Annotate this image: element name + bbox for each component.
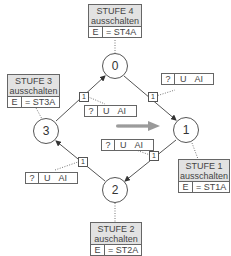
action-value: = ST3A bbox=[22, 97, 59, 107]
cond-a: AI bbox=[191, 74, 214, 84]
action-subtitle: ausschalten bbox=[8, 86, 59, 96]
condition-3-0: ?UAI bbox=[84, 105, 137, 117]
state-1: 1 bbox=[173, 117, 199, 143]
priority-3-0: 1 bbox=[79, 92, 89, 102]
action-value: = ST2A bbox=[105, 245, 141, 255]
cond-u: U bbox=[98, 106, 114, 116]
cond-a: AI bbox=[55, 173, 78, 183]
cond-a: AI bbox=[131, 140, 154, 150]
action-title: STUFE 2 bbox=[91, 224, 141, 234]
action-subtitle: ausschalten bbox=[89, 16, 141, 26]
cond-u: U bbox=[39, 173, 55, 183]
state-3: 3 bbox=[33, 118, 59, 144]
action-stufe-1: STUFE 1ausschalten E= ST1A bbox=[178, 159, 230, 193]
condition-2-3: ?UAI bbox=[25, 172, 78, 184]
action-stufe-2: STUFE 2auschalten E= ST2A bbox=[90, 222, 142, 256]
state-2: 2 bbox=[102, 177, 128, 203]
priority-0-1: 1 bbox=[148, 92, 158, 102]
action-e: E bbox=[91, 245, 105, 255]
action-e: E bbox=[179, 182, 193, 192]
action-title: STUFE 3 bbox=[8, 76, 59, 86]
priority-2-3: 1 bbox=[78, 157, 88, 167]
action-title: STUFE 4 bbox=[89, 6, 141, 16]
action-subtitle: auschalten bbox=[91, 234, 141, 244]
action-value: = ST1A bbox=[193, 182, 229, 192]
cond-q: ? bbox=[102, 140, 115, 150]
action-subtitle: ausschalten bbox=[179, 171, 229, 181]
action-stufe-4: STUFE 4ausschalten E= ST4A bbox=[88, 4, 142, 38]
action-stufe-3: STUFE 3ausschalten E= ST3A bbox=[7, 74, 60, 108]
action-e: E bbox=[89, 27, 103, 37]
priority-1-2: 1 bbox=[149, 151, 159, 161]
action-value: = ST4A bbox=[103, 27, 141, 37]
cond-u: U bbox=[115, 140, 131, 150]
flow-arrow-icon bbox=[116, 121, 160, 131]
action-title: STUFE 1 bbox=[179, 161, 229, 171]
condition-0-1: ?UAI bbox=[161, 73, 214, 85]
cond-a: AI bbox=[114, 106, 137, 116]
cond-q: ? bbox=[26, 173, 39, 183]
action-e: E bbox=[8, 97, 22, 107]
state-0: 0 bbox=[102, 53, 128, 79]
cond-u: U bbox=[175, 74, 191, 84]
condition-1-2: ?UAI bbox=[101, 139, 154, 151]
cond-q: ? bbox=[85, 106, 98, 116]
cond-q: ? bbox=[162, 74, 175, 84]
